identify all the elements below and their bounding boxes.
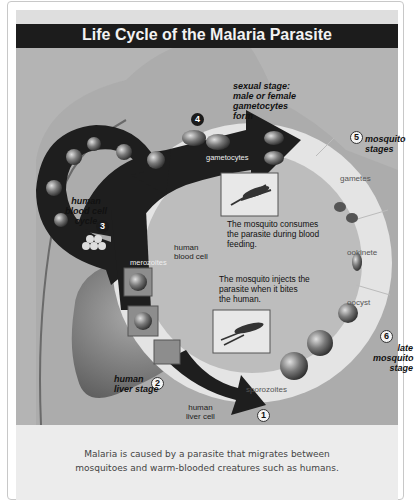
caption-line: Malaria is caused by a parasite that mig… [16,447,398,461]
stage-6-label: late mosquito stage [373,343,413,373]
note-line: the human. [219,294,310,304]
merozoites-label: merozoites [130,258,167,267]
note-line: parasite when it bites [219,284,310,294]
stage-4-line: gametocytes [233,101,296,111]
stage-5-label: mosquito stages [365,134,406,154]
title-bar: Life Cycle of the Malaria Parasite [16,24,398,48]
stage-3-line: blood cell [65,206,107,216]
stage-6-line: late [373,343,413,353]
human-liver-cell-label: human liver cell [186,403,215,421]
note-line: The mosquito injects the [219,274,310,284]
label-line: human [186,403,215,412]
sporozoites-label: sporozoites [246,385,287,394]
stage-3-label: human blood cell cycle [65,196,107,226]
note-mosquito-injects: The mosquito injects the parasite when i… [219,274,310,304]
stage-2-label: human liver stage [114,374,159,394]
stage-5-line: stages [365,144,406,154]
note-line: the parasite during blood [227,229,319,239]
stage-2-line: human [114,374,159,384]
stage-1-badge: 1 [257,409,270,422]
stage-4-line: male or female [233,91,296,101]
gametocytes-label: gametocytes [206,153,249,162]
label-line: human [174,243,208,252]
stage-2-line: liver stage [114,384,159,394]
stage-6-line: stage [373,363,413,373]
figure-top-strip [16,10,398,24]
stage-4-line: sexual stage: [233,81,296,91]
human-blood-cell-label: human blood cell [174,243,208,261]
stage-6-line: mosquito [373,353,413,363]
stage-3-line: cycle [65,216,107,226]
label-line: liver cell [186,412,215,421]
stage-5-line: mosquito [365,134,406,144]
stage-4-label: sexual stage: male or female gametocytes… [233,81,296,121]
note-line: feeding. [227,239,319,249]
figure-title: Life Cycle of the Malaria Parasite [16,26,398,44]
stage-5-badge: 5 [350,131,363,144]
label-line: blood cell [174,252,208,261]
note-mosquito-consumes: The mosquito consumes the parasite durin… [227,219,319,249]
oocyst-label: oocyst [347,298,370,307]
figure-caption: Malaria is caused by a parasite that mig… [16,447,398,475]
note-line: The mosquito consumes [227,219,319,229]
figure: 1 2 3 4 5 6 sexual stage: male or female… [16,10,398,500]
stage-6-badge: 6 [380,330,393,343]
stage-4-line: form [233,111,296,121]
ookinete-label: ookinete [347,248,377,257]
caption-line: mosquitoes and warm-blooded creatures su… [16,461,398,475]
stage-3-line: human [65,196,107,206]
gametes-label: gametes [340,174,371,183]
stage-4-badge: 4 [191,113,204,126]
